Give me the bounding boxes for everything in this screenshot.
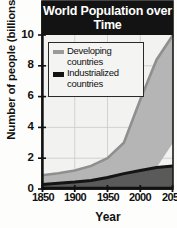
x-tick-label-1850: 1850 [26,191,60,203]
chart-legend: Developing countries Industrialized coun… [48,42,144,97]
legend-label-industrialized-line1: Industrialized [67,67,119,78]
legend-item-industrialized: Industrialized countries [53,68,140,89]
legend-label-developing-line1: Developing [67,45,112,56]
legend-swatch-industrialized-icon [53,72,64,77]
legend-label-industrialized: Industrialized countries [67,68,119,89]
legend-label-developing-line2: countries [67,56,103,67]
legend-label-developing: Developing countries [67,46,112,67]
chart-title-bar: World Population over Time [42,1,173,35]
legend-swatch-developing-icon [53,50,64,54]
chart-title: World Population over Time [42,4,173,32]
y-tick-label-2: 2 [8,151,34,163]
y-axis-title: Number of people (billions) [5,0,17,143]
x-tick-label-1950: 1950 [91,191,125,203]
x-tick-label-1900: 1900 [58,191,92,203]
legend-label-industrialized-line2: countries [67,78,103,89]
legend-item-developing: Developing countries [53,46,140,67]
x-axis-title: Year [42,210,174,224]
x-tick-label-2000: 2000 [123,191,157,203]
x-tick-label-2050: 2050 [156,191,177,203]
